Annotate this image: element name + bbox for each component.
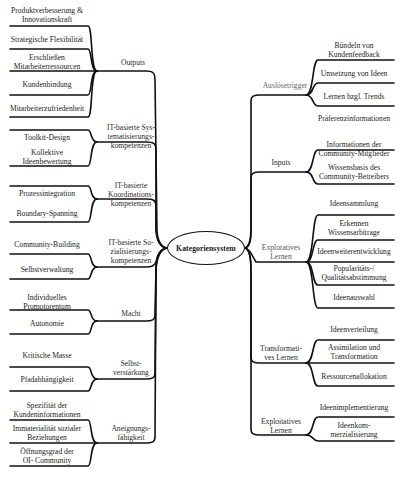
category-aneignungsfaehigkeit: Aneignungs- fähigkeit [96, 424, 166, 442]
central-node: Kategoriensystem [167, 231, 245, 265]
leaf-autonomie: Autonomie [4, 319, 90, 328]
leaf-informationen-community-mitglieder: Informationen der Community-Mitglieder [311, 140, 397, 158]
leaf-ideenkommerzialisierung: Ideenkom- merzialisierung [311, 421, 397, 439]
category-macht: Macht [96, 309, 166, 318]
leaf-ideenauswahl: Ideenauswahl [311, 293, 397, 302]
leaf-assimilation-transformation: Assimilation und Transformation [311, 343, 397, 361]
category-outputs: Outputs [98, 58, 168, 67]
leaf-umsetzung-von-ideen: Umsetzung von Ideen [311, 69, 397, 78]
leaf-individuelles-promotorentum: Individuelles Promotorentum [4, 293, 90, 311]
leaf-ideenverteilung: Ideenverteilung [311, 325, 397, 334]
leaf-praeferenzinformationen: Präferenzinformationen [311, 114, 397, 123]
category-it-systematisierung: IT-basierte Sys- tematisierungs- kompete… [96, 123, 166, 150]
category-selbstverstaerkung: Selbst- verstärkung [96, 359, 166, 377]
leaf-ideenweiterentwicklung: Ideenweiterentwicklung [311, 247, 397, 256]
leaf-ressourcenallokation: Ressourcenallokation [311, 372, 397, 381]
leaf-prozessintegration: Prozessintegration [4, 189, 90, 198]
leaf-ideenimplementierung: Ideenimplementierung [311, 403, 397, 412]
leaf-selbstverwaltung: Selbstverwaltung [4, 265, 90, 274]
leaf-strategische-flexibilitaet: Strategische Flexibilität [4, 35, 90, 44]
category-it-sozialisierung: IT-basierte So- zialisierungs- kompetenz… [96, 238, 166, 265]
category-it-koordination: IT-basierte Koordinations- kompetenzen [96, 181, 166, 208]
leaf-erschliessen-mitarbeiterressourcen: Erschließen Mitarbeiterressourcen [4, 53, 90, 71]
leaf-produktverbesserung: Produktverbesserung & Innovationskraft [4, 6, 90, 24]
category-exploitatives-lernen: Exploitatives Lernen [246, 417, 316, 435]
leaf-kundenbindung: Kundenbindung [4, 80, 90, 89]
leaf-oeffnungsgrad-oi-community: Öffnungsgrad der OI- Community [4, 447, 90, 465]
category-exploratives-lernen: Exploratives Lernen [246, 243, 316, 261]
category-transformatives-lernen: Transformati- ves Lernen [246, 344, 316, 362]
leaf-erkennen-wissensarbitrage: Erkennen Wissensarbitrage [311, 219, 397, 237]
central-node-label: Kategoriensystem [176, 244, 236, 253]
leaf-mitarbeiterzufriedenheit: Mitarbeiterzufriedenheit [4, 104, 90, 113]
leaf-kollektive-ideenbewertung: Kollektive Ideenbewertung [4, 148, 90, 166]
leaf-ideensammlung: Ideensammlung [311, 199, 397, 208]
leaf-community-building: Community-Building [4, 240, 90, 249]
category-ausloesetrigger: Auslösetrigger [250, 81, 320, 90]
leaf-popularitaets-qualitaetsabstimmung: Popularitäts-/ Qualitätsabstimmung [311, 264, 397, 282]
leaf-pfadabhaengigkeit: Pfadabhängigkeit [4, 375, 90, 384]
leaf-wissensbasis-community-betreiber: Wissensbasis des Community-Betreibers [311, 163, 397, 181]
leaf-buendeln-kundenfeedback: Bündeln von Kundenfeedback [311, 41, 397, 59]
category-inputs: Inputs [246, 158, 316, 167]
leaf-lernen-bzgl-trends: Lernen bzgl. Trends [311, 92, 397, 101]
leaf-kritische-masse: Kritische Masse [4, 351, 90, 360]
leaf-spezifitaet-kundeninformationen: Spezifität der Kundeninformationen [4, 401, 90, 419]
leaf-boundary-spanning: Boundary-Spanning [4, 209, 90, 218]
mind-map-canvas: Kategoriensystem Outputs IT-basierte Sys… [0, 0, 401, 477]
leaf-immaterialitaet-sozialer-beziehungen: Immaterialität sozialer Beziehungen [4, 424, 90, 442]
leaf-toolkit-design: Toolkit-Design [4, 133, 90, 142]
